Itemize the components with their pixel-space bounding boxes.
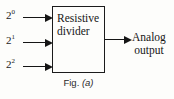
caption-prefix: Fig. bbox=[63, 77, 79, 88]
input-label-2-power-1: 21 bbox=[6, 35, 15, 46]
input-label-2-power-2: 22 bbox=[6, 59, 15, 70]
input-exponent: 0 bbox=[12, 8, 16, 16]
block-diagram-figure: 20 21 22 Resistive divider Analog output… bbox=[0, 0, 174, 99]
output-label-line-2: output bbox=[132, 44, 166, 57]
input-exponent: 1 bbox=[12, 33, 16, 41]
figure-caption: Fig. (a) bbox=[52, 77, 105, 88]
input-exponent: 2 bbox=[12, 57, 16, 65]
input-arrow-0-icon bbox=[23, 13, 53, 22]
input-arrow-1-icon bbox=[23, 38, 53, 47]
resistive-divider-block: Resistive divider bbox=[52, 6, 105, 73]
block-label-line-2: divider bbox=[57, 25, 99, 38]
arrow-head bbox=[124, 36, 132, 44]
output-label: Analog output bbox=[132, 31, 166, 57]
arrow-shaft bbox=[23, 17, 46, 18]
output-label-line-1: Analog bbox=[132, 31, 166, 44]
input-label-2-power-0: 20 bbox=[6, 10, 15, 21]
caption-label: (a) bbox=[82, 77, 94, 88]
output-arrow-icon bbox=[105, 35, 132, 44]
arrow-shaft bbox=[23, 42, 46, 43]
arrow-shaft bbox=[23, 66, 46, 67]
block-label-line-1: Resistive bbox=[57, 12, 99, 25]
arrow-shaft bbox=[105, 39, 125, 40]
input-arrow-2-icon bbox=[23, 62, 53, 71]
block-label: Resistive divider bbox=[57, 12, 99, 38]
